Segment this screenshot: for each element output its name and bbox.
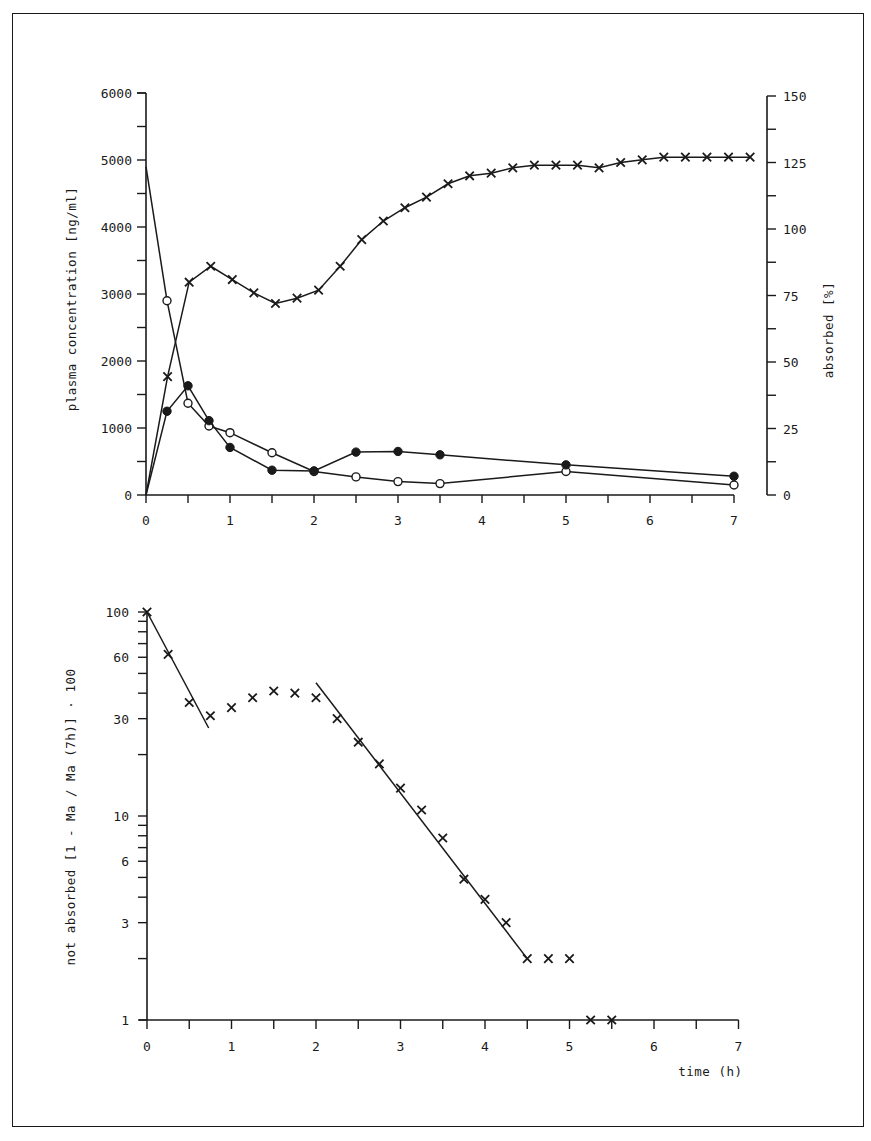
y-tick-label: 1000 (101, 421, 132, 436)
data-point-open-circle (394, 478, 402, 486)
x-tick-label: 1 (226, 513, 234, 528)
y-right-tick-label: 25 (783, 422, 799, 437)
y-right-tick-label: 100 (783, 222, 806, 237)
data-point-cross (312, 694, 320, 702)
data-point-cross (379, 217, 387, 225)
data-point-cross (250, 289, 258, 297)
x-tick-label: 6 (646, 513, 654, 528)
series-line-2 (146, 157, 750, 495)
data-point-cross (502, 918, 510, 926)
data-point-open-circle (730, 481, 738, 489)
data-point-cross (444, 180, 452, 188)
data-point-filled-circle (352, 448, 360, 456)
data-point-open-circle (268, 449, 276, 457)
data-point-open-circle (184, 399, 192, 407)
data-point-filled-circle (184, 382, 192, 390)
fit-line-1 (147, 612, 209, 728)
data-point-filled-circle (436, 451, 444, 459)
x-tick-label: 1 (228, 1039, 236, 1054)
data-point-cross (333, 714, 341, 722)
y-tick-label: 30 (113, 712, 129, 727)
data-point-cross (336, 262, 344, 270)
data-point-cross (417, 806, 425, 814)
x-tick-label: 5 (566, 1039, 574, 1054)
x-tick-label: 2 (312, 1039, 320, 1054)
x-tick-label: 3 (394, 513, 402, 528)
data-point-filled-circle (268, 466, 276, 474)
figure-canvas: 0100020003000400050006000plasma concentr… (0, 0, 871, 1141)
x-tick-label: 4 (481, 1039, 489, 1054)
data-point-cross (523, 954, 531, 962)
data-point-cross (248, 694, 256, 702)
data-point-cross (565, 954, 573, 962)
bottom-y-axis-title: not absorbed [1 - Ma / Ma (7h)] · 100 (63, 669, 78, 966)
x-tick-label: 7 (735, 1039, 743, 1054)
data-point-filled-circle (730, 472, 738, 480)
data-point-cross (185, 698, 193, 706)
data-point-cross (544, 954, 552, 962)
data-point-open-circle (352, 473, 360, 481)
x-tick-label: 7 (730, 513, 738, 528)
y-tick-label: 5000 (101, 153, 132, 168)
data-point-open-circle (163, 297, 171, 305)
fit-line-2 (316, 683, 527, 959)
bottom-x-axis-title: time (h) (678, 1064, 742, 1079)
x-tick-label: 0 (142, 513, 150, 528)
y-right-tick-label: 50 (783, 355, 799, 370)
x-tick-label: 3 (397, 1039, 405, 1054)
x-tick-label: 5 (562, 513, 570, 528)
data-point-cross (439, 834, 447, 842)
data-point-filled-circle (310, 467, 318, 475)
y-tick-label: 10 (113, 809, 129, 824)
x-tick-label: 6 (650, 1039, 658, 1054)
y-right-tick-label: 0 (783, 488, 791, 503)
data-point-open-circle (436, 480, 444, 488)
data-point-cross (291, 689, 299, 697)
data-point-open-circle (226, 429, 234, 437)
y-tick-label: 6 (121, 854, 129, 869)
data-point-filled-circle (226, 443, 234, 451)
data-point-filled-circle (205, 416, 213, 424)
x-tick-label: 0 (143, 1039, 151, 1054)
x-tick-label: 2 (310, 513, 318, 528)
y-tick-label: 3000 (101, 287, 132, 302)
y-tick-label: 3 (121, 916, 129, 931)
y-tick-label: 6000 (101, 86, 132, 101)
data-point-cross (422, 193, 430, 201)
top-right-axis-title: absorbed [%] (821, 282, 836, 378)
y-right-tick-label: 150 (783, 89, 806, 104)
data-point-cross (358, 235, 366, 243)
data-point-cross (314, 286, 322, 294)
y-tick-label: 2000 (101, 354, 132, 369)
y-tick-label: 100 (106, 605, 129, 620)
data-point-cross (228, 275, 236, 283)
y-right-tick-label: 125 (783, 156, 806, 171)
data-point-filled-circle (394, 447, 402, 455)
data-point-filled-circle (562, 461, 570, 469)
x-tick-label: 4 (478, 513, 486, 528)
y-tick-label: 60 (113, 650, 129, 665)
data-point-filled-circle (163, 407, 171, 415)
y-tick-label: 4000 (101, 220, 132, 235)
y-tick-label: 1 (121, 1013, 129, 1028)
top-chart-plasma-concentration: 0100020003000400050006000plasma concentr… (64, 86, 836, 528)
y-right-tick-label: 75 (783, 289, 799, 304)
data-point-cross (206, 712, 214, 720)
data-point-cross (270, 687, 278, 695)
series-line-0 (146, 167, 734, 485)
data-point-cross (227, 703, 235, 711)
y-tick-label: 0 (124, 488, 132, 503)
top-y-axis-title: plasma concentration [ng/ml] (64, 187, 79, 412)
data-point-cross (401, 204, 409, 212)
data-point-cross (207, 262, 215, 270)
data-point-cross (375, 760, 383, 768)
bottom-chart-not-absorbed: 136103060100not absorbed [1 - Ma / Ma (7… (63, 605, 743, 1079)
